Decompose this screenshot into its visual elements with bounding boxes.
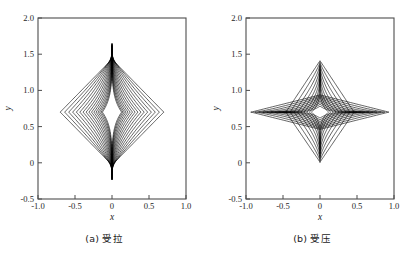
curve-family-horizontal-b: [251, 95, 389, 129]
x-tick-label: 0: [318, 201, 322, 211]
panel-a-caption: (a) 受拉: [0, 231, 208, 245]
y-tick-label: 0.5: [231, 122, 242, 132]
x-tick-label: 0.5: [144, 201, 155, 211]
y-axis-title: y: [211, 106, 221, 112]
y-tick-label: 2.0: [231, 13, 242, 23]
figure-container: -1.0-0.500.51.0-0.500.51.01.52.0xy (a) 受…: [0, 0, 416, 262]
plot-frame: [246, 18, 394, 199]
x-tick-label: 0: [110, 201, 114, 211]
y-tick-label: 1.5: [231, 49, 242, 59]
x-tick-label: -0.5: [68, 201, 82, 211]
x-tick-label: 1.0: [389, 201, 400, 211]
curve-family-a: [60, 43, 164, 179]
y-tick-label: 1.0: [23, 85, 34, 95]
panel-a: -1.0-0.500.51.0-0.500.51.01.52.0xy (a) 受…: [0, 0, 208, 262]
panel-b: -1.0-0.500.51.0-0.500.51.01.52.0xy (b) 受…: [208, 0, 416, 262]
curve-family-vertical-b: [286, 61, 354, 162]
panel-b-caption: (b) 受压: [208, 231, 416, 245]
curve-v9: [312, 80, 329, 143]
x-axis-title: x: [109, 212, 115, 222]
y-tick-label: 0: [238, 158, 242, 168]
x-tick-label: 0.5: [352, 201, 363, 211]
x-tick-label: -0.5: [276, 201, 290, 211]
curve-c16: [102, 43, 121, 179]
y-axis-title: y: [3, 106, 13, 112]
y-tick-label: 1.0: [231, 85, 242, 95]
x-axis-title: x: [317, 212, 323, 222]
y-tick-label: 1.5: [23, 49, 34, 59]
y-tick-label: 2.0: [23, 13, 34, 23]
y-tick-label: -0.5: [228, 194, 242, 204]
plot-a: -1.0-0.500.51.0-0.500.51.01.52.0xy: [0, 0, 208, 232]
y-tick-label: 0.5: [23, 122, 34, 132]
x-tick-label: 1.0: [181, 201, 192, 211]
plot-b: -1.0-0.500.51.0-0.500.51.01.52.0xy: [208, 0, 416, 232]
y-tick-label: 0: [30, 158, 34, 168]
y-tick-label: -0.5: [20, 194, 34, 204]
